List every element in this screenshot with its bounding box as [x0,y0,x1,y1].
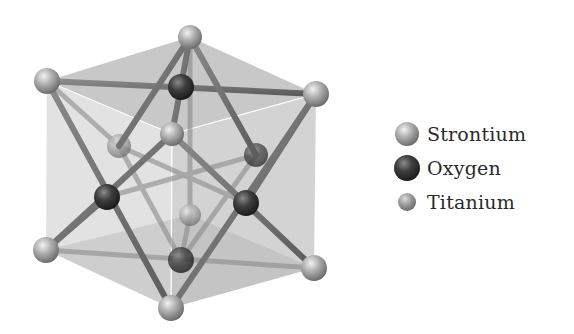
strontium-atom [303,81,329,107]
oxygen-atom-right [233,190,259,216]
strontium-atom [178,25,202,49]
oxygen-atom-bottom [168,247,194,273]
legend-item-oxygen: Oxygen [393,151,526,185]
dark-sphere-icon [393,154,421,182]
strontium-atom [179,204,201,226]
legend-label: Oxygen [427,157,501,179]
strontium-atom [301,255,327,281]
strontium-atom [158,295,184,321]
strontium-atom [34,68,60,94]
strontium-atom [33,237,59,263]
legend-item-strontium: Strontium [393,117,526,151]
strontium-atom [160,122,184,146]
oxygen-atom-top [168,74,194,100]
legend: Strontium Oxygen Titanium [393,117,526,219]
small-sphere-icon [393,191,421,213]
oxygen-atom-left [94,184,120,210]
legend-label: Strontium [427,123,526,145]
light-sphere-icon [393,121,421,147]
legend-item-titanium: Titanium [393,185,526,219]
legend-label: Titanium [427,191,515,213]
